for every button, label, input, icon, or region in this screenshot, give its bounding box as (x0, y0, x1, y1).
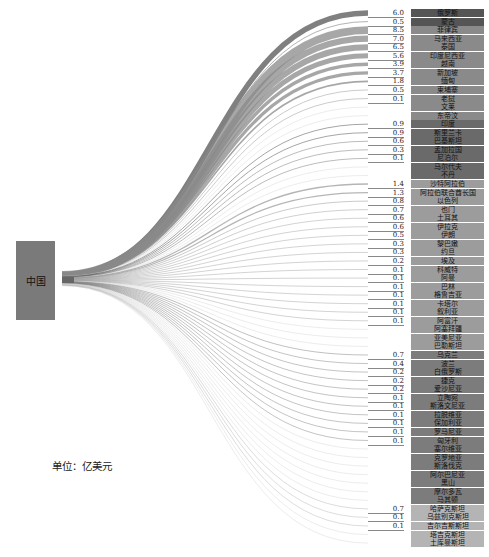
target-node: 阿尔巴尼亚 (411, 471, 484, 479)
target-row: 0.1科威特 (0, 266, 489, 274)
target-node: 菲律宾 (411, 26, 484, 34)
target-node: 科威特 (411, 266, 484, 274)
target-row: 0.1罗马尼亚 (0, 428, 489, 436)
target-row: 0.3孟加拉国 (0, 146, 489, 154)
target-row: 0.2埃及 (0, 257, 489, 265)
target-node: 阿曼 (411, 274, 484, 282)
target-row: 3.9越南 (0, 60, 489, 68)
target-row: 黑山 (0, 479, 489, 487)
target-node: 泰国 (411, 43, 484, 51)
target-row: 0.1吉尔吉斯斯坦 (0, 522, 489, 530)
target-node: 土耳其 (411, 214, 484, 222)
target-node: 印度 (411, 120, 484, 128)
target-row: 0.1匈牙利 (0, 437, 489, 445)
target-node: 马尔代夫 (411, 163, 484, 171)
target-node: 塞尔维亚 (411, 445, 484, 453)
target-row: 阿尔巴尼亚 (0, 471, 489, 479)
target-node: 克罗地亚 (411, 454, 484, 462)
target-node: 伊朗 (411, 231, 484, 239)
target-node: 以色列 (411, 197, 484, 205)
target-node: 文莱 (411, 103, 484, 111)
target-row: 不丹 (0, 171, 489, 179)
target-row: 1.4沙特阿拉伯 (0, 180, 489, 188)
target-row: 0.5伊朗 (0, 231, 489, 239)
target-node: 埃及 (411, 257, 484, 265)
target-row: 塞尔维亚 (0, 445, 489, 453)
target-node: 亚美尼亚 (411, 334, 484, 342)
target-row: 塔吉克斯坦 (0, 531, 489, 539)
target-node: 摩尔多瓦 (411, 488, 484, 496)
target-node: 阿富汗 (411, 317, 484, 325)
target-row: 0.7也门 (0, 206, 489, 214)
target-row: 0.2捷克 (0, 377, 489, 385)
target-node: 黎巴嫩 (411, 240, 484, 248)
target-node: 卡塔尔 (411, 300, 484, 308)
target-row: 亚美尼亚 (0, 334, 489, 342)
target-row: 0.1老挝 (0, 95, 489, 103)
target-node: 巴基斯坦 (411, 137, 484, 145)
target-row: 6.5泰国 (0, 43, 489, 51)
target-row: 5.6印度尼西亚 (0, 52, 489, 60)
target-row: 0.1巴林 (0, 283, 489, 291)
target-node: 波兰 (411, 360, 484, 368)
target-node: 巴林 (411, 283, 484, 291)
target-row: 0.9斯里兰卡 (0, 129, 489, 137)
target-node: 叙利亚 (411, 308, 484, 316)
target-node: 斯里兰卡 (411, 129, 484, 137)
target-node: 乌兹别克斯坦 (411, 513, 484, 521)
target-row: 0.1立陶宛 (0, 394, 489, 402)
target-node: 俄罗斯 (411, 9, 484, 17)
target-node: 土库曼斯坦 (411, 539, 484, 547)
target-row: 马尔代夫 (0, 163, 489, 171)
target-row: 0.1尼泊尔 (0, 154, 489, 162)
target-row: 文莱 (0, 103, 489, 111)
target-row: 6.0俄罗斯 (0, 9, 489, 17)
target-node: 白俄罗斯 (411, 368, 484, 376)
target-node: 印度尼西亚 (411, 52, 484, 60)
target-row: 0.5柬埔寨 (0, 86, 489, 94)
target-row: 东帝汶 (0, 112, 489, 120)
target-row: 0.1卡塔尔 (0, 300, 489, 308)
target-row: 0.6土耳其 (0, 214, 489, 222)
target-node: 沙特阿拉伯 (411, 180, 484, 188)
target-node: 尼泊尔 (411, 154, 484, 162)
target-row: 0.1阿富汗 (0, 317, 489, 325)
target-node: 蒙古 (411, 18, 484, 26)
target-node: 东帝汶 (411, 112, 484, 120)
target-node: 马来西亚 (411, 35, 484, 43)
target-node: 也门 (411, 206, 484, 214)
target-node: 阿拉伯联合酋长国 (411, 189, 484, 197)
target-node: 老挝 (411, 95, 484, 103)
target-node: 不丹 (411, 171, 484, 179)
target-row: 0.1叙利亚 (0, 308, 489, 316)
target-row: 克罗地亚 (0, 454, 489, 462)
target-node: 哈萨克斯坦 (411, 505, 484, 513)
target-row: 斯洛伐克 (0, 462, 489, 470)
target-row: 0.7哈萨克斯坦 (0, 505, 489, 513)
target-node: 巴勒斯坦 (411, 342, 484, 350)
target-row: 8.5菲律宾 (0, 26, 489, 34)
target-row: 0.7乌克兰 (0, 351, 489, 359)
target-row: 7.0马来西亚 (0, 35, 489, 43)
target-node: 伊拉克 (411, 223, 484, 231)
target-row: 0.3黎巴嫩 (0, 240, 489, 248)
target-node: 匈牙利 (411, 437, 484, 445)
target-node: 斯洛伐克 (411, 462, 484, 470)
target-row: 1.8缅甸 (0, 77, 489, 85)
target-row: 土库曼斯坦 (0, 539, 489, 547)
target-row: 巴勒斯坦 (0, 342, 489, 350)
target-node: 新加坡 (411, 69, 484, 77)
target-node: 捷克 (411, 377, 484, 385)
target-node: 约旦 (411, 248, 484, 256)
target-row: 马其顿 (0, 496, 489, 504)
target-node: 马其顿 (411, 496, 484, 504)
target-row: 摩尔多瓦 (0, 488, 489, 496)
target-row: 0.3约旦 (0, 248, 489, 256)
target-row: 0.6巴基斯坦 (0, 137, 489, 145)
target-row: 0.1格鲁吉亚 (0, 291, 489, 299)
target-node: 孟加拉国 (411, 146, 484, 154)
target-row: 0.4波兰 (0, 360, 489, 368)
target-node: 拉脱维亚 (411, 411, 484, 419)
target-node: 黑山 (411, 479, 484, 487)
target-node: 乌克兰 (411, 351, 484, 359)
